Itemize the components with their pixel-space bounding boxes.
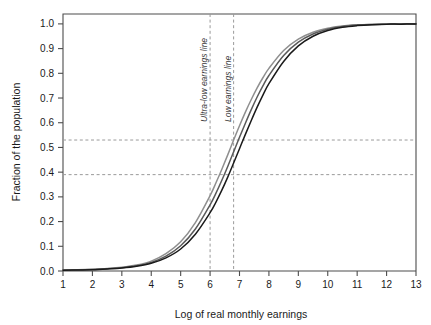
x-tick-label: 3 [119, 279, 125, 290]
y-tick-label: 0.7 [40, 93, 54, 104]
y-tick-label: 0.9 [40, 43, 54, 54]
x-tick-label: 13 [410, 279, 422, 290]
reference-line-labels: Ultra-low earnings lineLow earnings line [199, 38, 233, 122]
series-line-curve-dark [63, 24, 416, 270]
x-tick-label: 8 [266, 279, 272, 290]
x-tick-label: 6 [207, 279, 213, 290]
x-axis-ticks: 12345678910111213 [60, 271, 422, 290]
y-tick-label: 1.0 [40, 18, 54, 29]
plot-frame [63, 14, 416, 271]
y-axis-ticks: 0.00.10.20.30.40.50.60.70.80.91.0 [40, 18, 63, 276]
x-tick-label: 2 [90, 279, 96, 290]
y-tick-label: 0.8 [40, 68, 54, 79]
ultra-low-earnings-line-label: Ultra-low earnings line [199, 38, 209, 122]
plot-border [63, 14, 416, 271]
y-tick-label: 0.6 [40, 117, 54, 128]
x-tick-label: 12 [381, 279, 393, 290]
x-axis-title: Log of real monthly earnings [175, 308, 308, 320]
x-tick-label: 4 [148, 279, 154, 290]
x-tick-label: 1 [60, 279, 66, 290]
y-tick-label: 0.5 [40, 142, 54, 153]
y-tick-label: 0.0 [40, 266, 54, 277]
x-tick-label: 5 [178, 279, 184, 290]
x-tick-label: 9 [296, 279, 302, 290]
x-tick-label: 10 [322, 279, 334, 290]
y-tick-label: 0.2 [40, 216, 54, 227]
y-axis-title: Fraction of the population [10, 83, 22, 202]
reference-lines-group [63, 14, 416, 271]
chart-canvas: 12345678910111213 0.00.10.20.30.40.50.60… [0, 0, 431, 325]
series-group [63, 24, 416, 270]
low-earnings-line-label: Low earnings line [223, 56, 233, 122]
x-tick-label: 7 [237, 279, 243, 290]
x-tick-label: 11 [352, 279, 363, 290]
y-tick-label: 0.1 [40, 241, 54, 252]
y-tick-label: 0.3 [40, 191, 54, 202]
chart-figure: 12345678910111213 0.00.10.20.30.40.50.60… [0, 0, 431, 325]
y-tick-label: 0.4 [40, 167, 54, 178]
